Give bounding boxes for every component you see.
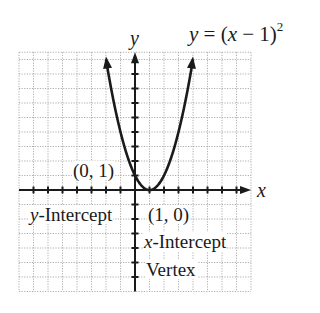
x-intercept-label: x-Intercept	[143, 232, 227, 251]
curve-arrow-left-icon	[103, 57, 112, 69]
equation-title: y = (x − 1)2	[188, 22, 284, 45]
x-intercept-word: -Intercept	[152, 231, 226, 252]
y-axis-label: y	[129, 28, 140, 48]
vertex-point-label: (1, 0)	[147, 205, 190, 224]
y-intercept-label: y-Intercept	[29, 205, 113, 224]
equation-rest: − 1)	[237, 22, 277, 46]
x-axis-arrow-icon	[240, 186, 251, 194]
equation-exponent: 2	[277, 19, 284, 34]
curve-arrow-right-icon	[187, 57, 196, 69]
equation-y: y	[189, 22, 198, 46]
vertex-label: Vertex	[145, 260, 197, 279]
equation-eq: = (	[198, 22, 227, 46]
y-intercept-word: -Intercept	[38, 204, 112, 225]
y-axis-arrow-icon	[131, 52, 139, 63]
y-intercept-point-label: (0, 1)	[72, 161, 115, 180]
equation-x: x	[228, 22, 237, 46]
x-axis-label: x	[256, 180, 267, 200]
